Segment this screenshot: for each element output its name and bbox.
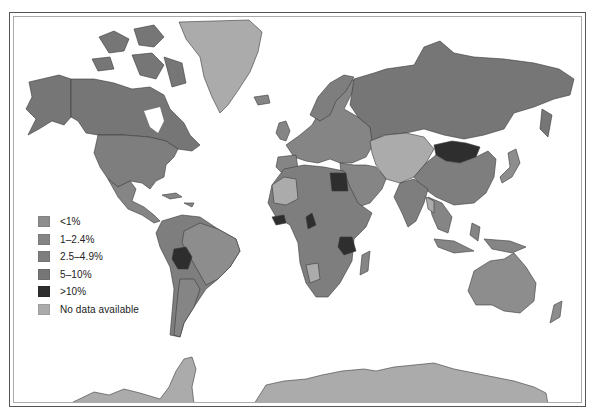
- madagascar: [360, 251, 370, 275]
- map-frame: <1% 1–2.4% 2.5–4.9% 5–10% >10% No data a…: [9, 12, 586, 407]
- new-zealand: [550, 301, 562, 323]
- legend-label: 2.5–4.9%: [60, 251, 103, 262]
- legend-label: 5–10%: [60, 269, 92, 280]
- legend-swatch: [38, 304, 50, 315]
- legend-item-5-10: 5–10%: [38, 266, 139, 284]
- kamchatka: [540, 109, 552, 137]
- antarctica-main: [254, 363, 548, 403]
- legend-item-1-2-4: 1–2.4%: [38, 231, 139, 249]
- guinea: [272, 215, 286, 225]
- legend-swatch: [38, 216, 50, 227]
- greenland: [179, 20, 262, 113]
- legend-label: No data available: [60, 304, 139, 315]
- world-map: [14, 17, 582, 403]
- legend-item-no-data: No data available: [38, 301, 139, 319]
- australia: [468, 253, 536, 313]
- legend-swatch: [38, 269, 50, 280]
- arctic-islands: [92, 25, 186, 87]
- legend-label: >10%: [60, 286, 86, 297]
- map-inner-frame: <1% 1–2.4% 2.5–4.9% 5–10% >10% No data a…: [13, 16, 582, 403]
- antarctica-peninsula: [69, 357, 196, 403]
- legend-swatch: [38, 234, 50, 245]
- iceland: [254, 95, 270, 105]
- legend-item-lt1: <1%: [38, 213, 139, 231]
- uk: [276, 121, 290, 141]
- legend-label: <1%: [60, 216, 81, 227]
- legend-item-2-5-4-9: 2.5–4.9%: [38, 248, 139, 266]
- legend-label: 1–2.4%: [60, 234, 95, 245]
- japan: [500, 149, 520, 183]
- india: [394, 179, 428, 227]
- legend-item-gt10: >10%: [38, 283, 139, 301]
- legend-swatch: [38, 286, 50, 297]
- legend-swatch: [38, 251, 50, 262]
- legend: <1% 1–2.4% 2.5–4.9% 5–10% >10% No data a…: [38, 213, 139, 318]
- caribbean: [162, 193, 194, 207]
- egypt: [330, 173, 348, 191]
- usa: [94, 135, 178, 189]
- alaska: [26, 75, 71, 135]
